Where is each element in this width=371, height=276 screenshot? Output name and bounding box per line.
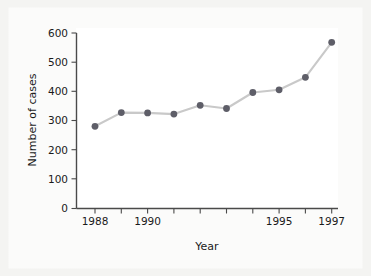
x-axis-title: Year bbox=[194, 240, 219, 253]
data-point-1992 bbox=[197, 102, 204, 109]
data-point-1994 bbox=[249, 89, 256, 96]
y-tick-label: 500 bbox=[48, 56, 68, 68]
y-axis-ticks bbox=[72, 33, 77, 209]
x-tick-label: 1990 bbox=[134, 215, 161, 227]
data-point-1991 bbox=[171, 111, 178, 118]
plot-area-background bbox=[76, 28, 338, 209]
y-tick-label: 0 bbox=[61, 202, 68, 214]
x-tick-label: 1997 bbox=[318, 215, 345, 227]
data-point-1989 bbox=[118, 109, 125, 116]
y-tick-label: 200 bbox=[48, 144, 68, 156]
x-tick-label: 1995 bbox=[266, 215, 293, 227]
y-tick-label: 600 bbox=[48, 27, 68, 39]
data-point-1990 bbox=[144, 110, 151, 117]
x-tick-label: 1988 bbox=[82, 215, 109, 227]
line-chart: 600 500 400 300 200 100 0 1988 1990 1995 bbox=[0, 0, 371, 276]
x-axis-tick-labels: 1988 1990 1995 1997 bbox=[82, 215, 345, 227]
data-point-1996 bbox=[302, 74, 309, 81]
x-axis-ticks bbox=[95, 209, 332, 214]
data-point-1997 bbox=[328, 39, 335, 46]
y-axis-tick-labels: 600 500 400 300 200 100 0 bbox=[48, 27, 68, 215]
data-point-1995 bbox=[276, 86, 283, 93]
y-tick-label: 300 bbox=[48, 114, 68, 126]
y-tick-label: 400 bbox=[48, 85, 68, 97]
data-point-1993 bbox=[223, 105, 230, 112]
y-tick-label: 100 bbox=[48, 173, 68, 185]
y-axis-title: Number of cases bbox=[26, 73, 39, 166]
data-point-1988 bbox=[92, 123, 99, 130]
chart-figure: 600 500 400 300 200 100 0 1988 1990 1995 bbox=[0, 0, 371, 276]
